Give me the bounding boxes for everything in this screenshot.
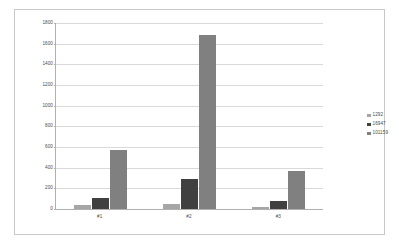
y-tick-label-1400: 1400 [42, 62, 53, 67]
legend-swatch-icon [367, 123, 371, 127]
bar-group-cat3 [234, 23, 323, 209]
y-tick-label-0: 0 [50, 207, 53, 212]
chart-frame: 020040060080010001200140016001800 #1#2#3… [14, 9, 385, 235]
plot-area: 020040060080010001200140016001800 [55, 23, 323, 209]
bar[interactable] [288, 171, 305, 209]
x-axis-label-cat2: #2 [144, 209, 233, 220]
legend-item-16947[interactable]: 16947 [367, 122, 388, 127]
bar[interactable] [199, 35, 216, 209]
bar[interactable] [92, 198, 109, 209]
bar-group-cat2 [145, 23, 234, 209]
y-tick-label-600: 600 [45, 145, 53, 150]
x-axis-label-cat3: #3 [234, 209, 323, 220]
y-tick-label-1000: 1000 [42, 103, 53, 108]
legend-swatch-icon [367, 114, 371, 118]
legend-label: 16947 [373, 122, 386, 127]
y-tick-label-1600: 1600 [42, 41, 53, 46]
chart-legend: 129216947101159 [367, 113, 388, 136]
legend-label: 1292 [373, 113, 384, 118]
bars-layer [56, 23, 323, 209]
bar-group-cat1 [56, 23, 145, 209]
y-tick-label-200: 200 [45, 186, 53, 191]
y-tick-label-1800: 1800 [42, 21, 53, 26]
y-tick-label-400: 400 [45, 165, 53, 170]
legend-item-1292[interactable]: 1292 [367, 113, 388, 118]
y-tick-label-800: 800 [45, 124, 53, 129]
bar[interactable] [110, 150, 127, 209]
bar[interactable] [181, 179, 198, 209]
legend-item-101159[interactable]: 101159 [367, 131, 388, 136]
category-axis: #1#2#3 [55, 209, 323, 220]
y-tick-label-1200: 1200 [42, 83, 53, 88]
bar[interactable] [270, 201, 287, 209]
legend-swatch-icon [367, 132, 371, 136]
legend-label: 101159 [373, 131, 389, 136]
x-axis-label-cat1: #1 [55, 209, 144, 220]
